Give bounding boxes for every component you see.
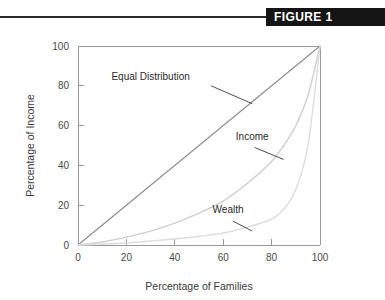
series-annotations: Equal DistributionIncomeWealth bbox=[111, 71, 283, 231]
annotation-label-equal-distribution: Equal Distribution bbox=[111, 71, 189, 82]
x-tick-label: 60 bbox=[218, 252, 230, 263]
lorenz-curve-chart: 020406080100 020406080100 Equal Distribu… bbox=[0, 30, 385, 300]
x-axis-ticks bbox=[126, 239, 271, 245]
x-tick-label: 40 bbox=[169, 252, 181, 263]
x-tick-label: 20 bbox=[121, 252, 133, 263]
chart-canvas: 020406080100 020406080100 Equal Distribu… bbox=[0, 30, 385, 300]
y-tick-label: 0 bbox=[63, 240, 69, 251]
annotation-leader-income bbox=[255, 147, 284, 159]
figure-number-banner: FIGURE 1 bbox=[266, 8, 385, 26]
figure-header: FIGURE 1 bbox=[0, 0, 385, 34]
x-tick-label: 0 bbox=[75, 252, 81, 263]
x-tick-label: 100 bbox=[312, 252, 329, 263]
y-tick-label: 80 bbox=[58, 80, 70, 91]
y-axis-title: Percentage of Income bbox=[24, 94, 36, 197]
figure-number-label: FIGURE 1 bbox=[274, 10, 333, 24]
x-axis-tick-labels: 020406080100 bbox=[75, 252, 329, 263]
annotation-leader-equal-distribution bbox=[211, 86, 252, 104]
annotation-label-wealth: Wealth bbox=[213, 204, 244, 215]
x-tick-label: 80 bbox=[266, 252, 278, 263]
x-axis-title: Percentage of Families bbox=[145, 280, 252, 292]
y-tick-label: 60 bbox=[58, 120, 70, 131]
y-axis-tick-labels: 020406080100 bbox=[52, 41, 69, 251]
y-axis-ticks bbox=[78, 46, 84, 205]
y-tick-label: 100 bbox=[52, 41, 69, 52]
y-tick-label: 20 bbox=[58, 200, 70, 211]
header-divider-rule bbox=[0, 16, 268, 18]
y-tick-label: 40 bbox=[58, 160, 70, 171]
annotation-label-income: Income bbox=[236, 131, 269, 142]
